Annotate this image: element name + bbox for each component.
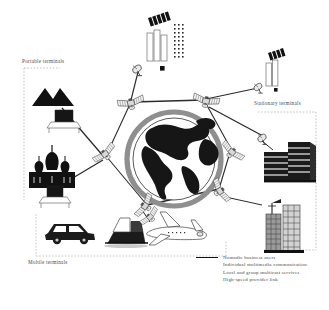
- airplane-icon: [147, 212, 207, 245]
- globe: [127, 112, 221, 206]
- skyscraper-icon-right: [283, 205, 300, 252]
- legend-item-label: Individual multimedia communication: [223, 261, 307, 268]
- site-top-right: [253, 48, 286, 93]
- site-portable-cathedral: [29, 145, 75, 208]
- office-base-shadow: [264, 180, 316, 182]
- legend-item-label: Nomadic business users: [223, 254, 275, 261]
- legend-item: Nomadic business users: [196, 254, 326, 261]
- legend-line-marker-icon: [196, 257, 218, 259]
- skyscraper-icon-left: [266, 214, 281, 252]
- ground-dish-icon-stationary: [256, 133, 267, 145]
- label-stationary-terminals: Stationary terminals: [254, 100, 301, 107]
- site-stationary-skyscrapers: [264, 199, 304, 253]
- link-sat-to-topcity: [131, 72, 138, 100]
- laptop-icon-upper: [47, 110, 81, 133]
- legend-marker-placeholder: [196, 271, 218, 273]
- laptop-icon-lower: [39, 186, 71, 208]
- office-block-icon-tall: [288, 142, 316, 182]
- legend-marker-placeholder: [196, 279, 218, 281]
- cathedral-icon: [29, 145, 75, 188]
- car-icon: [45, 224, 95, 244]
- link-sat-to-stationary: [209, 107, 263, 136]
- legend-marker-placeholder: [196, 264, 218, 266]
- satellite-left: [92, 142, 118, 167]
- legend-item-label: High-speed provider link: [223, 276, 278, 283]
- antenna-array-top: [148, 12, 171, 27]
- satellite-top-right: [192, 93, 220, 110]
- legend-item: Local and group multicast services: [196, 269, 326, 276]
- legend-item-label: Local and group multicast services: [223, 269, 300, 276]
- legend-item: High-speed provider link: [196, 276, 326, 283]
- tower-block-icon-topright: [266, 60, 278, 86]
- link-sat-to-topright-site: [206, 88, 258, 99]
- ground-dish-icon-topright: [253, 82, 264, 93]
- mountains-icon: [32, 88, 74, 106]
- office-block-icon-low: [264, 152, 289, 180]
- label-mobile-terminals: Mobile terminals: [28, 259, 68, 266]
- base-block-topright: [274, 88, 278, 92]
- skyscraper-base-shadow: [264, 250, 304, 253]
- legend: Nomadic business users Individual multim…: [196, 254, 326, 284]
- dotted-tower-icon: [174, 24, 184, 58]
- vehicle-airplane: [147, 212, 207, 245]
- rooftop-antenna-icon: [268, 199, 281, 216]
- tower-block-icon-top: [147, 30, 167, 61]
- site-top-center: [131, 12, 183, 76]
- site-portable-mountains: [32, 88, 81, 133]
- antenna-array-topright: [268, 48, 285, 60]
- base-block-top: [160, 66, 165, 71]
- legend-item: Individual multimedia communication: [196, 261, 326, 268]
- vehicle-car: [45, 224, 95, 244]
- site-stationary-offices: [256, 133, 316, 183]
- label-portable-terminals: Portable terminals: [22, 58, 64, 65]
